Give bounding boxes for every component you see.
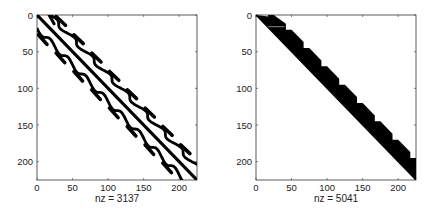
y-tick-label: 0 bbox=[247, 10, 252, 21]
x-tick-label: 50 bbox=[286, 182, 297, 193]
spy-plot-left: 050100150200050100150200 nz = 3137 bbox=[0, 0, 218, 213]
x-tick-label: 150 bbox=[355, 182, 371, 193]
chart-left-svg: 050100150200050100150200 bbox=[0, 0, 218, 213]
y-tick-label: 200 bbox=[236, 156, 252, 167]
y-tick-label: 200 bbox=[17, 156, 33, 167]
y-tick-label: 100 bbox=[236, 83, 252, 94]
x-tick-label: 0 bbox=[253, 182, 258, 193]
y-tick-label: 150 bbox=[236, 120, 252, 131]
x-axis-label-left: nz = 3137 bbox=[37, 193, 197, 204]
y-tick-label: 50 bbox=[22, 46, 33, 57]
x-tick-label: 200 bbox=[390, 182, 406, 193]
y-tick-label: 150 bbox=[17, 120, 33, 131]
x-tick-label: 100 bbox=[100, 182, 116, 193]
y-tick-label: 0 bbox=[28, 10, 33, 21]
x-axis-label-right: nz = 5041 bbox=[256, 193, 416, 204]
y-tick-label: 100 bbox=[17, 83, 33, 94]
x-tick-label: 100 bbox=[319, 182, 335, 193]
x-tick-label: 50 bbox=[67, 182, 78, 193]
spy-plot-right: 050100150200050100150200 nz = 5041 bbox=[219, 0, 435, 213]
x-tick-label: 150 bbox=[136, 182, 152, 193]
x-tick-label: 0 bbox=[34, 182, 39, 193]
chart-right-svg: 050100150200050100150200 bbox=[219, 0, 435, 213]
y-tick-label: 50 bbox=[241, 46, 252, 57]
x-tick-label: 200 bbox=[171, 182, 187, 193]
